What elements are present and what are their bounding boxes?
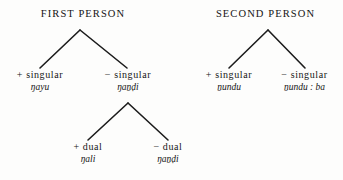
node-feature-label: + dual — [52, 141, 124, 153]
heading-first-person: FIRST PERSON — [0, 8, 166, 19]
node-first-person-plural: − dual ŋaṉḍi — [132, 141, 204, 165]
node-first-person-singular: + singular ŋayu — [0, 69, 80, 93]
branch-second-person-left — [229, 30, 268, 68]
branch-first-person-dual-left — [88, 103, 128, 140]
node-form-label: ŋali — [52, 153, 124, 165]
branch-first-person-dual-right — [128, 103, 168, 140]
node-feature-label: + singular — [190, 69, 268, 81]
branch-second-person-right — [268, 30, 305, 68]
node-second-person-singular: + singular ṉundu — [190, 69, 268, 93]
node-feature-label: − singular — [266, 69, 343, 81]
branch-first-person-right — [80, 30, 127, 68]
node-form-label: ŋaṉḍi — [88, 81, 168, 93]
node-feature-label: − dual — [132, 141, 204, 153]
pronoun-tree-diagram: FIRST PERSON SECOND PERSON + singular ŋa… — [0, 0, 343, 180]
node-first-person-dual: + dual ŋali — [52, 141, 124, 165]
node-feature-label: − singular — [88, 69, 168, 81]
node-first-person-nonsingular: − singular ŋaṉḍi — [88, 69, 168, 93]
node-form-label: ŋayu — [0, 81, 80, 93]
node-form-label: ŋaṉḍi — [132, 153, 204, 165]
branch-first-person-left — [40, 30, 80, 68]
node-form-label: ṉundu : ba — [266, 81, 343, 93]
node-second-person-nonsingular: − singular ṉundu : ba — [266, 69, 343, 93]
node-form-label: ṉundu — [190, 81, 268, 93]
heading-second-person: SECOND PERSON — [188, 8, 343, 19]
node-feature-label: + singular — [0, 69, 80, 81]
